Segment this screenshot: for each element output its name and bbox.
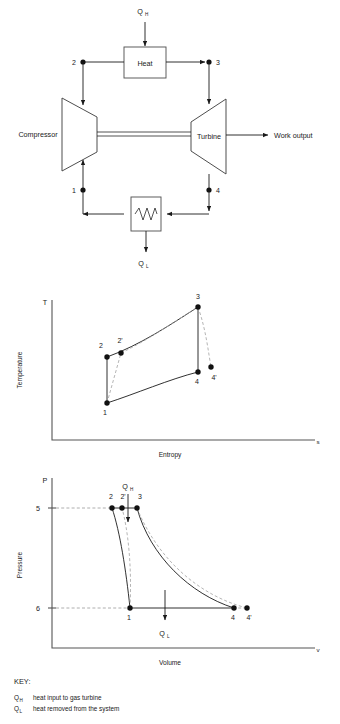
ts-point-3-label: 3 [196,293,200,300]
ts-point-2-dot [104,354,109,359]
key-ql-symbol: Q [14,705,19,713]
ts-path-1-2prime [107,353,121,403]
ts-x-axis-label: Entropy [159,451,182,459]
pv-point-3-label: 3 [138,493,142,500]
pv-point-2prime-dot [119,505,124,510]
key-entry-ql: Q L heat removed from the system [14,705,119,714]
pv-point-4-dot [231,605,236,610]
ts-point-4prime-dot [208,364,213,369]
pv-axes [52,478,315,648]
ts-y-axis-label: Temperature [16,351,24,388]
pv-point-1-label: 1 [127,614,131,621]
pv-point-4-label: 4 [231,614,235,621]
schematic-diagram: Q H Heat 2 3 Compressor Turbine W [18,7,312,269]
heat-input-subscript: H [145,12,148,17]
ts-y-axis-symbol: T [43,298,48,307]
pv-x-axis-symbol: v [316,646,320,653]
pv-heat-input-subscript: H [130,487,133,492]
state-point-4-label: 4 [216,187,220,194]
ts-point-1-dot [104,400,109,405]
ts-point-4-label: 4 [195,378,199,385]
state-point-1-label: 1 [72,187,76,194]
compressor-shape [62,98,97,171]
pv-diagram: P v Volume Pressure 5 6 2 [16,476,320,666]
pv-point-2-label: 2 [109,493,113,500]
pv-point-2prime-label: 2' [120,493,125,500]
state-point-2-label: 2 [72,59,76,66]
compressor-label: Compressor [18,130,58,139]
ts-point-3-dot [195,304,200,309]
gas-turbine-cycle-figure: Q H Heat 2 3 Compressor Turbine W [0,0,340,724]
ts-point-2-label: 2 [99,342,103,349]
key-ql-text: heat removed from the system [33,705,119,713]
pv-ytick-label-lower: 6 [36,604,40,613]
pv-heat-input-annotation: Q H [122,482,133,522]
pv-heat-reject-annotation: Q L [159,590,170,639]
ts-path-2-3 [107,307,198,357]
pv-ytick-label-upper: 5 [36,504,40,513]
pv-path-3-4 [137,508,234,608]
ts-diagram: T s Entropy Temperature 1 2 2' 3 4 4' [16,293,320,459]
ts-point-4-dot [195,369,200,374]
pv-heat-reject-subscript: L [167,634,170,639]
shaft [97,132,191,136]
heat-input-label: Q [137,7,143,16]
state-point-3-label: 3 [216,59,220,66]
pv-point-4prime-label: 4' [246,614,251,621]
key-qh-subscript: H [20,698,23,703]
cooler-box [131,197,161,231]
pv-point-2-dot [109,505,114,510]
heater-label: Heat [137,59,152,68]
key-qh-symbol: Q [14,694,19,702]
pv-y-axis-symbol: P [43,476,48,485]
ts-point-4prime-label: 4' [211,374,216,381]
ts-point-2prime-dot [118,350,123,355]
key-section: KEY: Q H heat input to gas turbine Q L h… [14,677,119,714]
key-ql-subscript: L [20,709,23,714]
work-output-label: Work output [274,131,313,140]
key-heading: KEY: [14,677,30,686]
ts-point-1-label: 1 [103,409,107,416]
ts-path-3-4prime [198,307,211,367]
pv-y-axis-label: Pressure [16,551,23,578]
ts-x-axis-symbol: s [316,438,319,445]
turbine-label: Turbine [197,132,221,141]
pv-point-1-dot [127,605,132,610]
pv-heat-reject-label: Q [159,629,165,638]
heat-reject-label: Q [138,259,144,268]
pv-path-1-2 [112,508,130,608]
pv-point-3-dot [134,505,139,510]
pv-x-axis-label: Volume [159,659,181,666]
heat-reject-subscript: L [146,264,149,269]
key-qh-text: heat input to gas turbine [33,694,102,702]
pv-point-4prime-dot [244,605,249,610]
pv-heat-input-label: Q [122,482,128,491]
key-entry-qh: Q H heat input to gas turbine [14,694,102,703]
ts-axes [52,300,315,440]
pv-path-3-4prime [137,508,247,608]
ts-point-2prime-label: 2' [117,337,122,344]
ts-path-4-1 [107,372,198,403]
